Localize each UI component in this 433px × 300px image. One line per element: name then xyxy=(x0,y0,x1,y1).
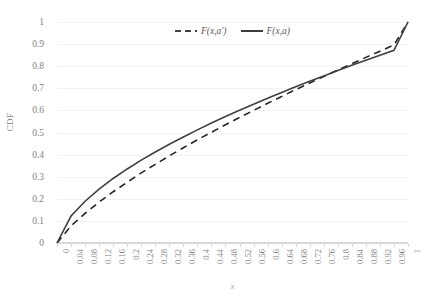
x-axis-tick-label: 0.04 xyxy=(75,249,85,264)
x-axis-tick-label: 0.64 xyxy=(285,249,295,264)
x-axis-tick-label: 0.4 xyxy=(201,249,211,260)
y-axis-tick-label: 0.9 xyxy=(32,39,44,49)
x-axis-tick-label: 0.08 xyxy=(89,249,99,264)
x-axis-tick-label: 0.84 xyxy=(355,249,365,264)
plot-area xyxy=(57,22,408,243)
x-axis-tick-mark xyxy=(408,243,409,247)
y-axis-tick-label: 1 xyxy=(39,17,44,27)
x-axis-tick-label: 0.6 xyxy=(271,249,281,260)
x-axis-tick-label: 0.16 xyxy=(117,249,127,264)
x-axis-tick-label: 0.24 xyxy=(145,249,155,264)
x-axis-tick-label: 0.76 xyxy=(327,249,337,264)
y-axis-tick-label: 0 xyxy=(39,238,44,248)
x-axis-title: x xyxy=(57,281,408,291)
y-axis-tick-label: 0.4 xyxy=(32,150,44,160)
y-axis-tick-label: 0.3 xyxy=(32,172,44,182)
x-axis-tick-label: 0.36 xyxy=(187,249,197,264)
series-line-solid xyxy=(57,22,408,243)
x-axis-tick-label: 0.48 xyxy=(229,249,239,264)
y-axis-tick-label: 0.2 xyxy=(32,194,44,204)
x-axis-tick-label: 0.12 xyxy=(103,249,113,264)
y-axis-tick-label: 0.5 xyxy=(32,128,44,138)
x-axis-tick-label: 0.88 xyxy=(369,249,379,264)
x-axis-tick-label: 0.52 xyxy=(243,249,253,264)
x-axis-tick-label: 1 xyxy=(412,249,422,253)
series-layer xyxy=(57,22,408,243)
y-axis-tick-label: 0.7 xyxy=(32,83,44,93)
x-axis-tick-label: 0.92 xyxy=(383,249,393,264)
x-axis-tick-label: 0.8 xyxy=(341,249,351,260)
x-axis-tick-label: 0.28 xyxy=(159,249,169,264)
y-axis-tick-label: 0.1 xyxy=(32,216,44,226)
x-axis-tick-label: 0.32 xyxy=(173,249,183,264)
x-axis-tick-label: 0.72 xyxy=(313,249,323,264)
x-axis-tick-label: 0.68 xyxy=(299,249,309,264)
x-axis-tick-label: 0 xyxy=(61,249,71,253)
x-axis-tick-label: 0.96 xyxy=(397,249,407,264)
x-axis-tick-label: 0.56 xyxy=(257,249,267,264)
y-axis-tick-labels: 00.10.20.30.40.50.60.70.80.91 xyxy=(14,0,48,243)
x-axis-tick-label: 0.2 xyxy=(131,249,141,260)
cdf-chart: CDF 00.10.20.30.40.50.60.70.80.91 00.040… xyxy=(0,0,433,300)
x-axis-title-label: x xyxy=(231,281,235,291)
x-axis-tick-labels: 00.040.080.120.160.20.240.280.320.360.40… xyxy=(57,247,408,281)
y-axis-tick-label: 0.6 xyxy=(32,105,44,115)
y-axis-tick-label: 0.8 xyxy=(32,61,44,71)
x-axis-tick-label: 0.44 xyxy=(215,249,225,264)
series-line-dashed xyxy=(57,22,408,243)
